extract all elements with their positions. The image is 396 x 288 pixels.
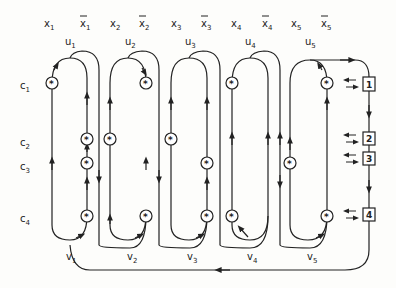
- svg-text:1: 1: [366, 80, 372, 90]
- node-c2-x3: *: [165, 133, 177, 145]
- node-c4-x4: *: [226, 210, 238, 222]
- node-c3-x5: *: [284, 157, 296, 169]
- label-xbar2: x2: [139, 18, 149, 32]
- label-u5: u5: [305, 36, 316, 50]
- svg-text:4: 4: [366, 210, 372, 220]
- node-c4-xbar1: *: [81, 210, 93, 222]
- svg-text:*: *: [84, 212, 89, 222]
- node-c4-xbar2: *: [140, 210, 152, 222]
- label-xbar3: x3: [201, 18, 211, 32]
- label-c2: c2: [20, 137, 30, 151]
- clause-box-4: 4: [346, 208, 375, 221]
- node-c1-x4: *: [226, 77, 238, 89]
- label-u1: u1: [65, 36, 76, 50]
- gadget-diagram: x1 x1 u1 x2 x2 u2 x3 x3 u3 x4 x4 u4 x5 x…: [0, 0, 396, 288]
- node-c4-xbar5: *: [321, 210, 333, 222]
- node-c4-xbar3: *: [201, 210, 213, 222]
- label-x3: x3: [171, 18, 181, 32]
- label-x2: x2: [110, 18, 120, 32]
- node-c3-xbar3: *: [201, 157, 213, 169]
- svg-text:*: *: [84, 159, 89, 169]
- node-c1-xbar2: *: [140, 77, 152, 89]
- svg-text:*: *: [168, 135, 173, 145]
- label-xbar5: x5: [321, 18, 331, 32]
- svg-text:*: *: [49, 79, 54, 89]
- svg-text:*: *: [143, 79, 148, 89]
- node-c1-x1: *: [46, 77, 58, 89]
- node-c3-xbar1: *: [81, 157, 93, 169]
- node-c1-xbar5: *: [321, 77, 333, 89]
- label-xbar4: x4: [262, 18, 273, 32]
- label-v5: v5: [307, 251, 317, 265]
- svg-text:*: *: [287, 159, 292, 169]
- label-c3: c3: [20, 161, 30, 175]
- label-u3: u3: [185, 36, 196, 50]
- svg-text:*: *: [143, 212, 148, 222]
- svg-text:*: *: [324, 212, 329, 222]
- svg-text:*: *: [229, 79, 234, 89]
- node-c2-x2: *: [104, 133, 116, 145]
- svg-text:2: 2: [366, 134, 372, 144]
- label-x4: x4: [231, 18, 242, 32]
- svg-text:*: *: [204, 212, 209, 222]
- label-u4: u4: [245, 36, 256, 50]
- label-c4: c4: [20, 213, 31, 227]
- label-v2: v2: [127, 251, 137, 265]
- label-v3: v3: [187, 251, 197, 265]
- label-xbar1: x1: [80, 18, 90, 32]
- svg-text:*: *: [229, 212, 234, 222]
- svg-text:3: 3: [366, 154, 372, 164]
- clause-box-3: 3: [346, 152, 375, 165]
- node-c2-xbar1: *: [81, 133, 93, 145]
- variable-labels: x1 x1 u1 x2 x2 u2 x3 x3 u3 x4 x4 u4 x5 x…: [44, 16, 331, 50]
- label-u2: u2: [125, 36, 136, 50]
- clause-box-1: 1: [346, 77, 375, 91]
- label-x5: x5: [291, 18, 301, 32]
- clause-labels: c1 c2 c3 c4: [20, 80, 31, 227]
- v-labels: v1 v2 v3 v4 v5: [66, 251, 317, 265]
- label-x1: x1: [44, 18, 54, 32]
- clause-box-2: 2: [346, 132, 375, 145]
- label-v4: v4: [247, 251, 258, 265]
- svg-text:*: *: [84, 135, 89, 145]
- svg-text:*: *: [107, 135, 112, 145]
- svg-text:*: *: [204, 159, 209, 169]
- label-c1: c1: [20, 80, 30, 94]
- svg-text:*: *: [324, 79, 329, 89]
